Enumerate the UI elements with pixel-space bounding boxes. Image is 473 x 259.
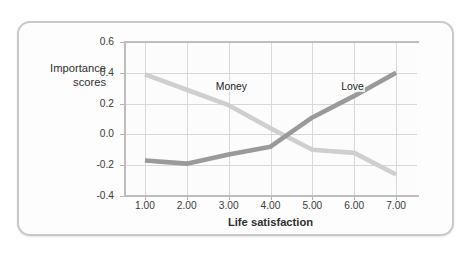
series-label-love: Love	[340, 81, 365, 92]
x-axis-title: Life satisfaction	[124, 216, 417, 228]
series-label-money: Money	[215, 81, 248, 92]
chart-figure: Importance scores 0.60.40.20.0-0.2-0.4 1…	[0, 0, 473, 259]
